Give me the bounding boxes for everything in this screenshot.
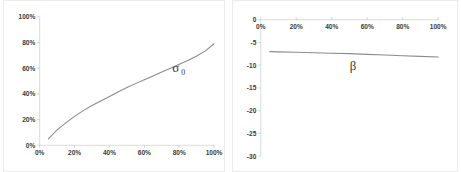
data-series-sigma_0 [48, 44, 214, 139]
x-tick-label: 60% [361, 23, 374, 30]
x-tick-label: 100% [430, 23, 447, 30]
x-tick-label: 80% [396, 23, 409, 30]
y-tick-label: 40% [22, 90, 35, 97]
series-annotation: β [350, 59, 357, 73]
sigma0-plot: 0%20%40%60%80%100%0%20%40%60%80%100%σ0 [4, 1, 224, 171]
x-tick-label: 100% [206, 149, 223, 156]
y-tick-label: 60% [22, 65, 35, 72]
series-label-glyph: β [350, 59, 357, 73]
figure-container: 0%20%40%60%80%100%0%20%40%60%80%100%σ0 0… [0, 0, 461, 172]
x-tick-label: 40% [325, 23, 338, 30]
series-annotation: σ0 [172, 61, 185, 77]
series-label-glyph: σ [172, 61, 179, 75]
x-tick-label: 60% [138, 149, 151, 156]
y-tick-label: -10 [247, 62, 257, 69]
y-tick-label: -5 [250, 39, 256, 46]
series-label-subscript: 0 [181, 68, 185, 77]
x-tick-label: 40% [103, 149, 116, 156]
x-tick-label: 80% [173, 149, 186, 156]
y-tick-label: 0% [26, 142, 36, 149]
y-tick-label: -15 [247, 84, 257, 91]
x-tick-label: 20% [290, 23, 303, 30]
chart-panel-sigma0: 0%20%40%60%80%100%0%20%40%60%80%100%σ0 [3, 0, 225, 172]
chart-panel-beta: 0-5-10-15-20-25-300%20%40%60%80%100%β [232, 0, 458, 172]
x-tick-label: 0% [35, 149, 45, 156]
y-tick-label: 100% [19, 13, 36, 20]
beta-plot: 0-5-10-15-20-25-300%20%40%60%80%100%β [233, 1, 457, 171]
y-tick-label: -30 [247, 153, 257, 160]
x-tick-label: 0% [256, 23, 266, 30]
y-tick-label: 20% [22, 116, 35, 123]
x-tick-label: 20% [68, 149, 81, 156]
y-tick-label: 0 [253, 16, 257, 23]
y-tick-label: -25 [247, 130, 257, 137]
y-tick-label: 80% [22, 39, 35, 46]
y-tick-label: -20 [247, 107, 257, 114]
data-series-beta [270, 52, 439, 57]
